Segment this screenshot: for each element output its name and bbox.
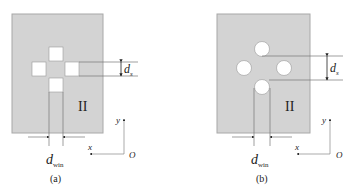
panel-b: ds dwin II y x O (b) xyxy=(217,14,343,185)
x-axis-label-a: x xyxy=(87,142,92,152)
region-label-a: II xyxy=(78,99,88,114)
figure-canvas: ds dwin II y x O (a) ds dwin xyxy=(0,0,352,194)
ds-label-a: ds xyxy=(124,62,133,78)
circle-hole-right xyxy=(277,61,292,76)
square-hole-bottom xyxy=(49,78,63,92)
circle-hole-top xyxy=(255,42,270,57)
ds-label-b: ds xyxy=(330,61,339,77)
caption-b: (b) xyxy=(256,173,268,185)
circle-hole-bottom xyxy=(255,80,270,95)
plate-a xyxy=(12,14,103,133)
dwin-label-b: dwin xyxy=(251,152,269,169)
y-axis-label-b: y xyxy=(321,115,326,125)
x-axis-label-b: x xyxy=(294,142,299,152)
circle-hole-left xyxy=(237,61,252,76)
origin-label-a: O xyxy=(129,150,136,160)
caption-a: (a) xyxy=(50,173,61,185)
square-hole-left xyxy=(32,62,46,76)
square-hole-right xyxy=(65,62,79,76)
origin-label-b: O xyxy=(336,150,343,160)
plate-b xyxy=(217,14,310,133)
square-hole-top xyxy=(49,47,63,61)
region-label-b: II xyxy=(285,99,295,114)
dwin-label-a: dwin xyxy=(46,152,64,169)
panel-a: ds dwin II y x O (a) xyxy=(12,14,138,185)
y-axis-label-a: y xyxy=(115,115,120,125)
